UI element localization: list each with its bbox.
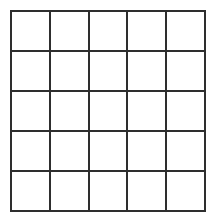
grid-cell[interactable] <box>11 171 50 211</box>
grid-cell[interactable] <box>166 91 205 131</box>
grid-cell[interactable] <box>127 11 166 51</box>
grid-cell[interactable] <box>11 51 50 91</box>
grid-row <box>11 171 205 211</box>
grid-cell[interactable] <box>166 171 205 211</box>
grid-cell[interactable] <box>11 91 50 131</box>
grid-cell[interactable] <box>11 11 50 51</box>
grid-cell[interactable] <box>89 131 128 171</box>
grid-cell[interactable] <box>127 91 166 131</box>
canvas <box>0 0 206 213</box>
grid-cell[interactable] <box>89 51 128 91</box>
grid-cell[interactable] <box>166 51 205 91</box>
grid-cell[interactable] <box>89 11 128 51</box>
grid-cell[interactable] <box>166 131 205 171</box>
grid-cell[interactable] <box>127 171 166 211</box>
grid-cell[interactable] <box>50 11 89 51</box>
grid-cell[interactable] <box>50 131 89 171</box>
grid-row <box>11 91 205 131</box>
grid-cell[interactable] <box>50 91 89 131</box>
grid-cell[interactable] <box>166 11 205 51</box>
grid-row <box>11 11 205 51</box>
grid-cell[interactable] <box>127 51 166 91</box>
grid <box>10 10 206 212</box>
grid-cell[interactable] <box>89 91 128 131</box>
grid-cell[interactable] <box>11 131 50 171</box>
grid-cell[interactable] <box>127 131 166 171</box>
grid-body <box>11 11 205 211</box>
grid-cell[interactable] <box>50 171 89 211</box>
grid-row <box>11 131 205 171</box>
grid-cell[interactable] <box>89 171 128 211</box>
grid-cell[interactable] <box>50 51 89 91</box>
grid-row <box>11 51 205 91</box>
